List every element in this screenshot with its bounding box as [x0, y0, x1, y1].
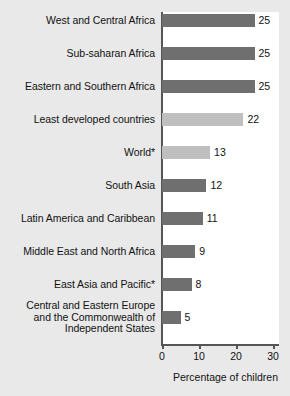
bar-category-label: Sub-saharan Africa [0, 48, 155, 60]
x-tick-label: 10 [184, 350, 214, 362]
bar-row: Least developed countries22 [0, 113, 290, 146]
bar-row: World*13 [0, 146, 290, 179]
bar-row: West and Central Africa25 [0, 14, 290, 47]
bar-chart-figure: West and Central Africa25Sub-saharan Afr… [0, 0, 290, 396]
bar-value-label: 22 [247, 113, 259, 126]
bar-value-label: 25 [259, 14, 271, 27]
bar-category-label: Least developed countries [0, 114, 155, 126]
bar-category-label: West and Central Africa [0, 15, 155, 27]
bar-category-label: Eastern and Southern Africa [0, 81, 155, 93]
bar-row: South Asia12 [0, 179, 290, 212]
bar [162, 47, 255, 60]
bar-category-label: Central and Eastern Europeand the Common… [0, 300, 155, 335]
x-axis-line [161, 344, 279, 346]
x-tick-mark [273, 344, 275, 349]
bar-row: Central and Eastern Europeand the Common… [0, 311, 290, 344]
x-tick-label: 30 [258, 350, 288, 362]
bar [162, 146, 210, 159]
bar [162, 311, 181, 324]
bar [162, 245, 195, 258]
bar-value-label: 9 [199, 245, 205, 258]
bar-category-label: Latin America and Caribbean [0, 213, 155, 225]
bar-value-label: 11 [207, 212, 218, 225]
bar [162, 80, 255, 93]
bar [162, 14, 255, 27]
bar-value-label: 25 [259, 47, 271, 60]
x-tick-mark [199, 344, 201, 349]
bar-row: Middle East and North Africa9 [0, 245, 290, 278]
bar-category-label: East Asia and Pacific* [0, 279, 155, 291]
x-tick-mark [236, 344, 238, 349]
x-tick-label: 0 [147, 350, 177, 362]
bar-value-label: 12 [210, 179, 222, 192]
bar-value-label: 8 [196, 278, 202, 291]
bar [162, 212, 203, 225]
bar-category-label: South Asia [0, 180, 155, 192]
bar [162, 113, 243, 126]
x-tick-label: 20 [221, 350, 251, 362]
bar [162, 179, 206, 192]
bar-category-label: Middle East and North Africa [0, 246, 155, 258]
bar-value-label: 25 [259, 80, 271, 93]
bar-row: Latin America and Caribbean11 [0, 212, 290, 245]
bar-row: Sub-saharan Africa25 [0, 47, 290, 80]
bar-value-label: 13 [214, 146, 226, 159]
x-tick-mark [162, 344, 164, 349]
bar-value-label: 5 [185, 311, 191, 324]
x-axis-title: Percentage of children [161, 371, 290, 383]
bar [162, 278, 192, 291]
bar-row: Eastern and Southern Africa25 [0, 80, 290, 113]
bar-category-label: World* [0, 147, 155, 159]
